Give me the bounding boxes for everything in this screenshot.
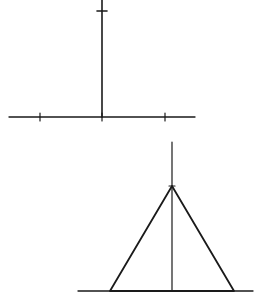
diagram-canvas	[0, 0, 262, 308]
figure-axis-with-ticks	[9, 0, 195, 121]
figure-triangle-with-altitude	[78, 142, 253, 291]
